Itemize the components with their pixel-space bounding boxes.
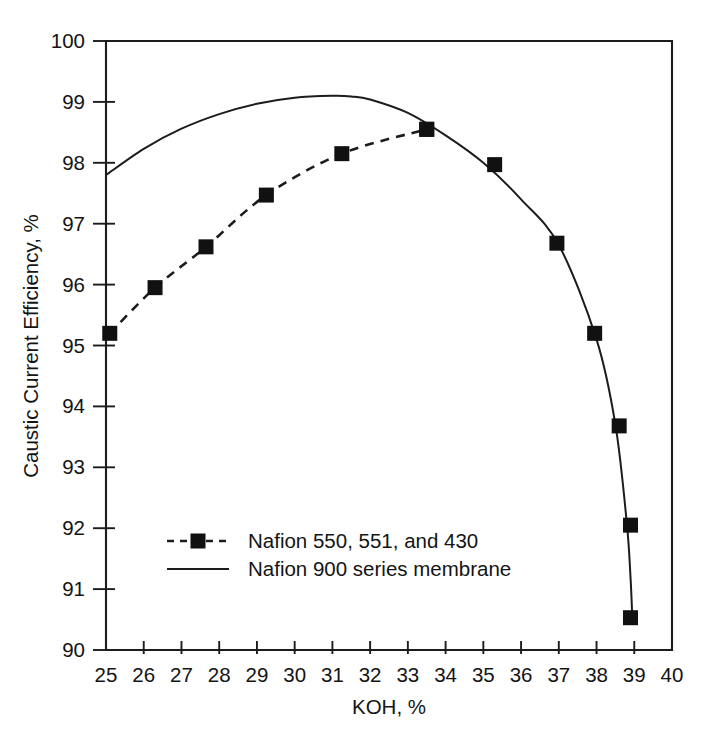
data-marker-dashed [148,280,163,295]
y-tick-label: 100 [51,29,85,52]
x-tick-label: 30 [283,663,306,686]
y-tick-label: 98 [62,151,85,174]
data-marker-solid [623,518,638,533]
y-tick-label: 97 [62,212,85,235]
y-tick-label: 99 [62,90,85,113]
x-tick-label: 40 [661,663,684,686]
x-tick-label: 28 [208,663,231,686]
x-tick-label: 29 [246,663,269,686]
data-marker-dashed [102,326,117,341]
x-tick-label: 35 [472,663,495,686]
data-marker-solid [612,418,627,433]
x-tick-label: 39 [623,663,646,686]
data-marker-solid [623,610,638,625]
legend-label: Nafion 550, 551, and 430 [248,529,478,552]
chart-canvas: 25262728293031323334353637383940 9091929… [0,0,708,739]
x-tick-label: 27 [170,663,193,686]
y-axis-title: Caustic Current Efficiency, % [19,214,42,478]
legend-label: Nafion 900 series membrane [248,557,511,580]
y-tick-label: 90 [62,638,85,661]
x-tick-label: 26 [132,663,155,686]
x-tick-label: 33 [396,663,419,686]
data-marker-solid [487,157,502,172]
x-axis-title: KOH, % [352,695,426,718]
x-tick-label: 32 [359,663,382,686]
x-tick-label: 25 [95,663,118,686]
y-tick-label: 93 [62,455,85,478]
y-tick-label: 91 [62,577,85,600]
x-tick-label: 37 [547,663,570,686]
y-tick-label: 96 [62,273,85,296]
data-marker-solid [587,326,602,341]
y-tick-label: 92 [62,516,85,539]
legend-marker-square [191,534,206,549]
data-marker-solid [549,236,564,251]
chart-figure: 25262728293031323334353637383940 9091929… [0,0,708,739]
data-marker-solid [419,122,434,137]
x-tick-label: 36 [510,663,533,686]
x-tick-label: 34 [434,663,457,686]
y-tick-label: 94 [62,394,85,417]
data-marker-dashed [198,239,213,254]
data-marker-dashed [334,146,349,161]
x-tick-label: 31 [321,663,344,686]
data-marker-dashed [259,188,274,203]
x-tick-label: 38 [585,663,608,686]
y-tick-label: 95 [62,334,85,357]
